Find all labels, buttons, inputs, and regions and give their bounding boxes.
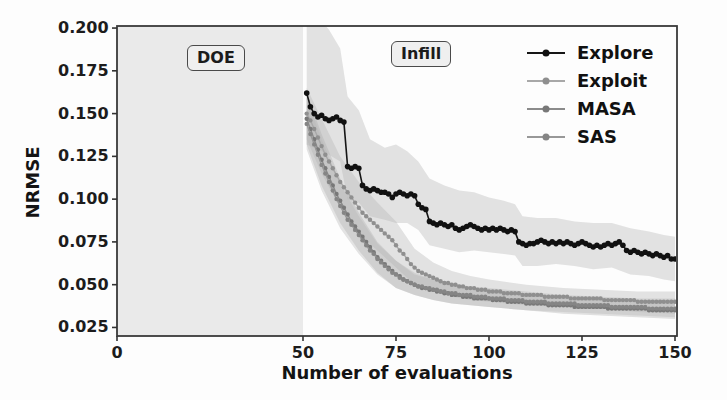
x-tick-125: 125: [557, 345, 607, 361]
legend-marker-dot: [543, 78, 550, 85]
figure: NRMSE Number of evaluations DOE Infill E…: [0, 0, 727, 400]
legend-label: SAS: [577, 128, 617, 146]
x-tick-100: 100: [464, 345, 514, 361]
doe-shaded-region: [117, 26, 303, 336]
legend-line-sample: [527, 52, 565, 54]
legend-label: Explore: [577, 44, 653, 62]
x-tick-150: 150: [650, 345, 700, 361]
y-tick-0.150: 0.150: [58, 106, 108, 122]
y-axis-label: NRMSE: [22, 108, 43, 258]
y-tick-0.075: 0.075: [58, 234, 108, 250]
legend-marker-dot: [543, 134, 550, 141]
legend-item-masa: MASA: [527, 95, 653, 123]
y-tick-0.175: 0.175: [58, 63, 108, 79]
legend-line-sample: [527, 136, 565, 138]
x-axis-label: Number of evaluations: [247, 362, 547, 383]
y-tick-0.200: 0.200: [58, 20, 108, 36]
legend-label: Exploit: [577, 72, 647, 90]
legend-label: MASA: [577, 100, 636, 118]
legend-line-sample: [527, 108, 565, 110]
x-tick-0: 0: [92, 345, 142, 361]
y-tick-0.025: 0.025: [58, 319, 108, 335]
legend-item-sas: SAS: [527, 123, 653, 151]
legend-item-explore: Explore: [527, 39, 653, 67]
infill-region-label: Infill: [391, 41, 451, 67]
legend: ExploreExploitMASASAS: [527, 39, 653, 151]
x-tick-50: 50: [278, 345, 328, 361]
y-tick-0.050: 0.050: [58, 277, 108, 293]
y-tick-0.125: 0.125: [58, 148, 108, 164]
legend-line-sample: [527, 80, 565, 82]
x-tick-75: 75: [371, 345, 421, 361]
legend-item-exploit: Exploit: [527, 67, 653, 95]
legend-marker-dot: [543, 50, 550, 57]
y-tick-0.100: 0.100: [58, 191, 108, 207]
doe-region-label: DOE: [187, 45, 245, 71]
legend-marker-dot: [543, 106, 550, 113]
